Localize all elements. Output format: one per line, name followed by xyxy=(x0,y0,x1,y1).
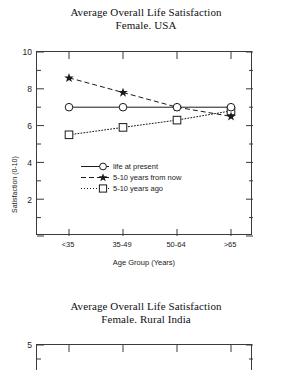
chart1-subtitle: Female. USA xyxy=(0,19,292,32)
legend-label-life-at-present: life at present xyxy=(113,161,158,172)
chart1-title: Average Overall Life Satisfaction Female… xyxy=(0,6,292,31)
chart2-canvas xyxy=(37,345,253,370)
chart1-ytick-2: 2 xyxy=(12,195,32,205)
chart1-title-line1: Average Overall Life Satisfaction xyxy=(70,6,221,18)
chart2-x-ticks xyxy=(69,345,231,352)
chart1-series-5-10-years-ago xyxy=(65,107,235,139)
chart1-plot-area: life at present 5-10 years from now xyxy=(36,51,252,235)
legend-key-star-dashed-icon xyxy=(80,172,110,183)
chart1-x-ticks xyxy=(69,52,231,236)
legend-label-5-10-years-ago: 5-10 years ago xyxy=(113,183,163,194)
figure-page: Average Overall Life Satisfaction Female… xyxy=(0,0,292,370)
chart1-xtick-35-49: 35-49 xyxy=(102,240,142,249)
chart1-ytick-6: 6 xyxy=(12,121,32,131)
chart1-xtick-over65: >65 xyxy=(210,240,250,249)
legend-item-life-at-present: life at present xyxy=(80,161,181,172)
chart2-title-line1: Average Overall Life Satisfaction xyxy=(70,300,221,312)
legend-key-circle-solid-icon xyxy=(80,161,110,172)
legend-item-5-10-years-ago: 5-10 years ago xyxy=(80,183,181,194)
chart1-legend: life at present 5-10 years from now xyxy=(80,161,181,194)
chart1-series-5-10-years-from-now xyxy=(64,73,236,121)
chart1-star-markers xyxy=(64,73,236,121)
legend-item-5-10-years-from-now: 5-10 years from now xyxy=(80,172,181,183)
chart1-x-axis-title: Age Group (Years) xyxy=(44,258,244,267)
chart1-ytick-4: 4 xyxy=(12,158,32,168)
chart2-title: Average Overall Life Satisfaction Female… xyxy=(0,300,292,325)
chart1-y-ticks-right xyxy=(246,52,253,236)
chart2-plot-area xyxy=(36,344,252,370)
legend-key-square-dotted-icon xyxy=(80,183,110,194)
chart1-ytick-8: 8 xyxy=(12,84,32,94)
chart1-series-life-at-present xyxy=(65,103,235,111)
chart1-y-ticks xyxy=(37,52,44,236)
legend-label-5-10-years-from-now: 5-10 years from now xyxy=(113,172,181,183)
chart1-xtick-50-64: 50-64 xyxy=(156,240,196,249)
chart2-subtitle: Female. Rural India xyxy=(0,313,292,326)
chart1-xtick-under35: <35 xyxy=(48,240,88,249)
chart1-canvas xyxy=(37,52,253,236)
chart2-ytick-5: 5 xyxy=(12,340,32,350)
chart1-ytick-10: 10 xyxy=(12,47,32,57)
